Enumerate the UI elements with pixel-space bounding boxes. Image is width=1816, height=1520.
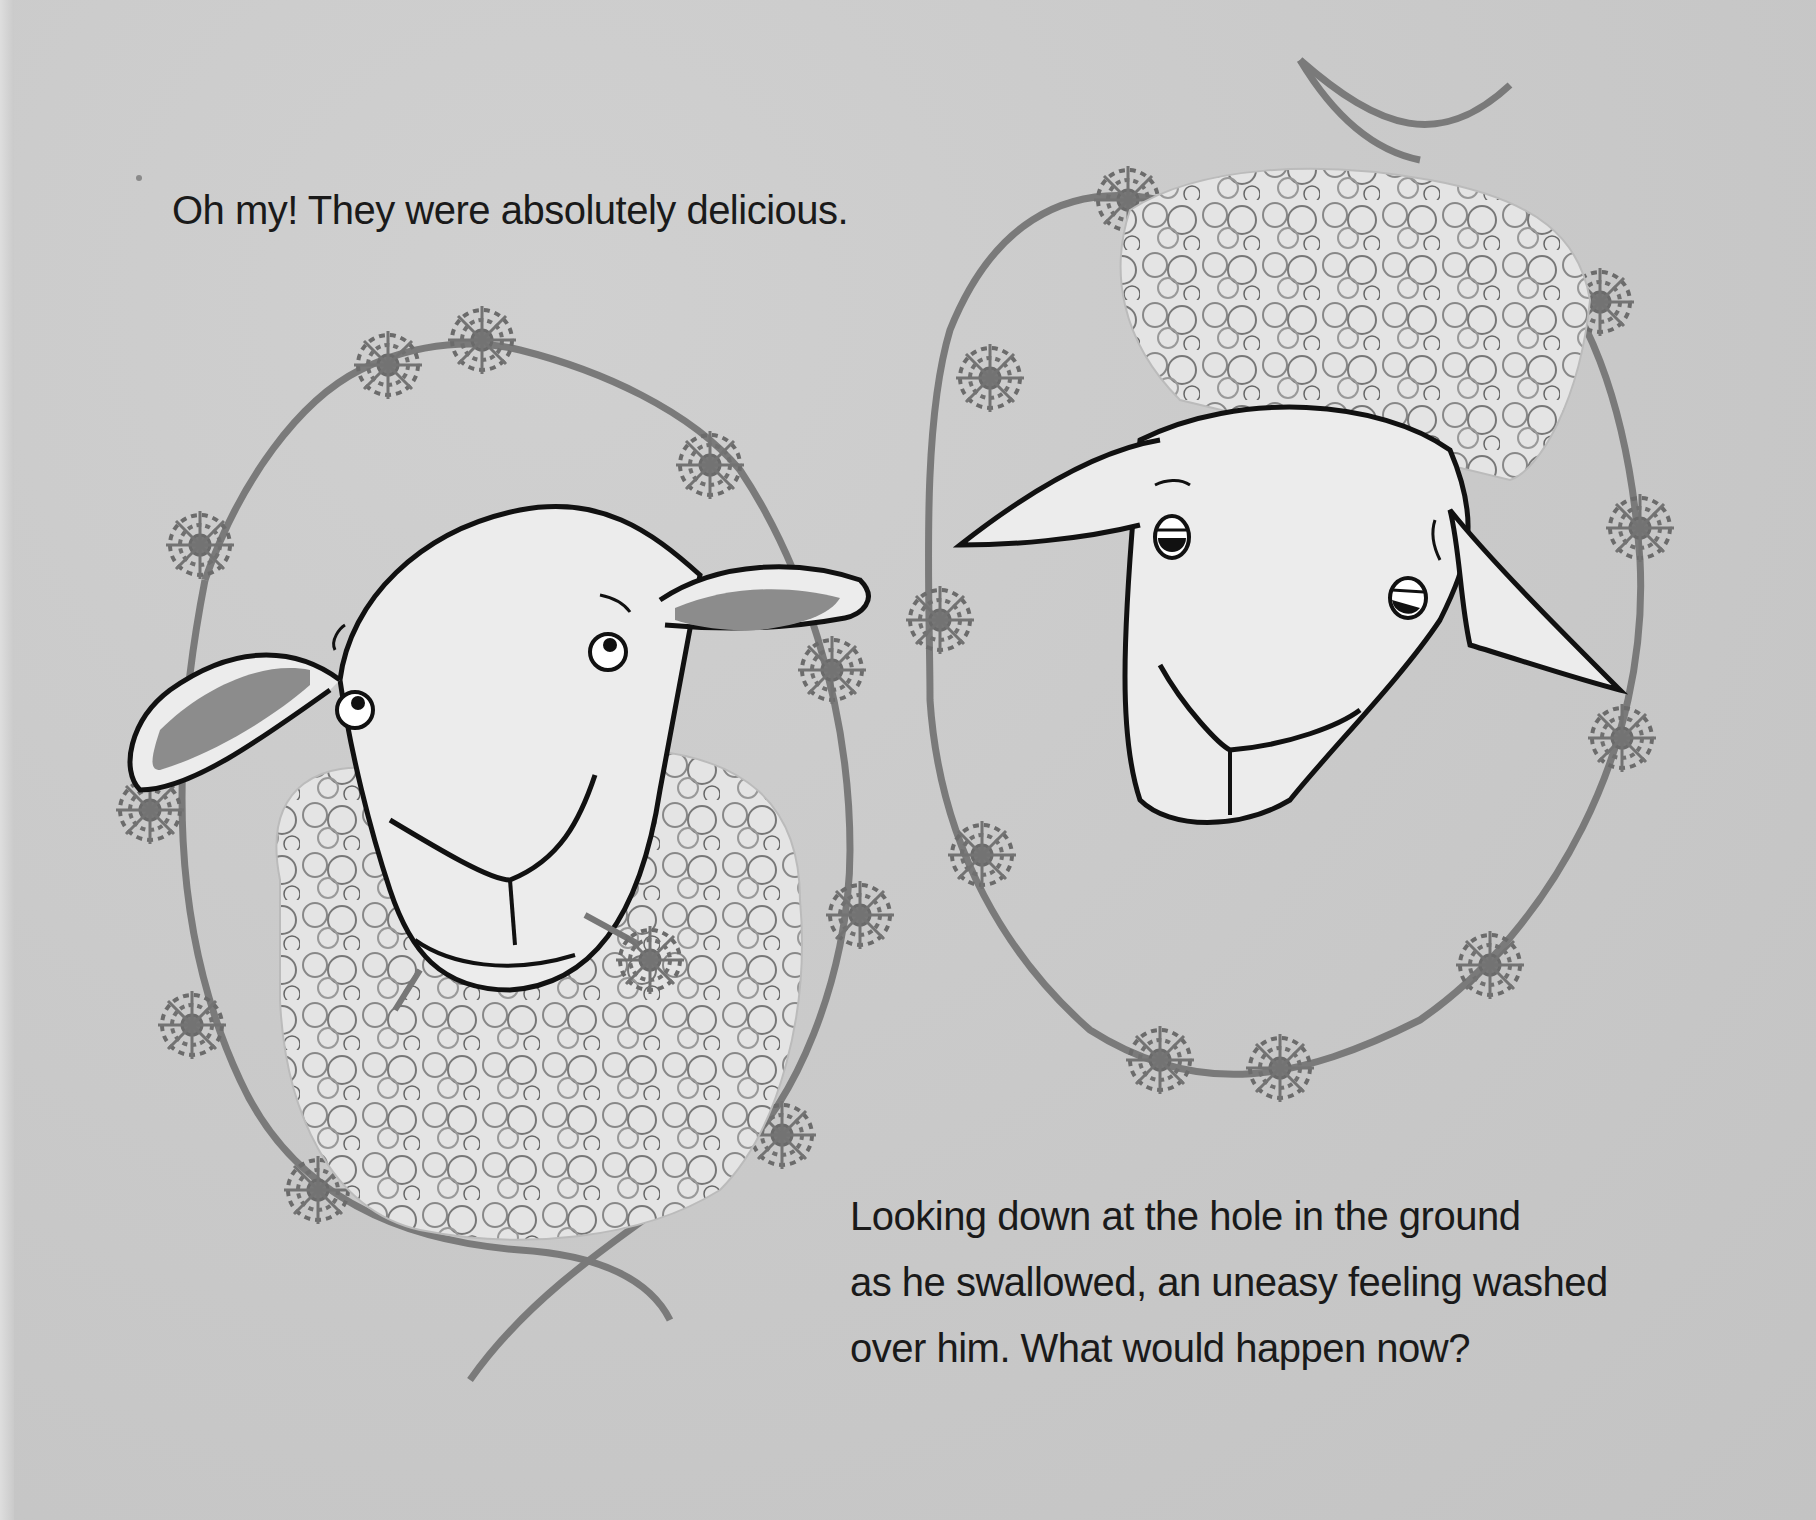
story-text-top: Oh my! They were absolutely delicious. (172, 190, 848, 230)
story-text-line: over him. What would happen now? (850, 1328, 1608, 1394)
story-text-line: as he swallowed, an uneasy feeling washe… (850, 1262, 1608, 1328)
book-page: Oh my! They were absolutely delicious. L… (0, 0, 1816, 1520)
story-text-bottom: Looking down at the hole in the ground a… (850, 1196, 1608, 1394)
story-text-line: Looking down at the hole in the ground (850, 1196, 1608, 1262)
